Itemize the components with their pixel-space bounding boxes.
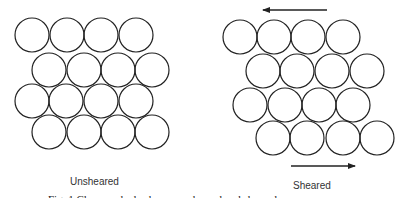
sphere-circle xyxy=(315,54,349,88)
sphere-circle xyxy=(84,84,118,118)
sphere-circle xyxy=(67,115,101,149)
sphere-circle xyxy=(223,20,257,54)
sphere-circle xyxy=(15,18,49,52)
sphere-circle xyxy=(135,115,169,149)
sphere-circle xyxy=(336,88,370,122)
sphere-circle xyxy=(101,53,135,87)
figure-caption: Fig. 1 Close-packed spheres, unsheared a… xyxy=(48,193,288,198)
shear-arrows xyxy=(263,10,355,166)
sheared-label: Sheared xyxy=(293,180,331,191)
shear-diagram xyxy=(0,0,401,198)
sphere-circle xyxy=(360,121,394,155)
sphere-circle xyxy=(326,20,360,54)
sphere-circle xyxy=(350,54,384,88)
sphere-circle xyxy=(50,18,84,52)
sphere-circle xyxy=(15,84,49,118)
sphere-circle xyxy=(302,88,336,122)
sphere-circle xyxy=(268,88,302,122)
sphere-circle xyxy=(256,121,290,155)
sphere-circle xyxy=(67,53,101,87)
sphere-circle xyxy=(257,20,291,54)
sheared-sphere-packing xyxy=(223,20,394,155)
sphere-circle xyxy=(135,53,169,87)
sphere-circle xyxy=(233,88,267,122)
unsheared-sphere-packing xyxy=(15,18,169,149)
sphere-circle xyxy=(280,54,314,88)
sphere-circle xyxy=(49,84,83,118)
sphere-circle xyxy=(246,54,280,88)
sphere-circle xyxy=(290,121,324,155)
sphere-circle xyxy=(291,20,325,54)
sphere-circle xyxy=(84,18,118,52)
unsheared-label: Unsheared xyxy=(70,176,119,187)
sphere-circle xyxy=(326,121,360,155)
sphere-circle xyxy=(101,115,135,149)
sphere-circle xyxy=(32,115,66,149)
sphere-circle xyxy=(119,84,153,118)
sphere-circle xyxy=(32,53,66,87)
sphere-circle xyxy=(119,18,153,52)
